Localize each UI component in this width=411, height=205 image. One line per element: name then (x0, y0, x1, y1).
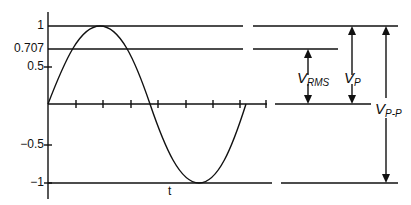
y-tick-label-neg05: −0.5 (0, 137, 44, 151)
v-peak-label: VP (344, 69, 361, 88)
y-tick-label-neg1: −1 (0, 175, 44, 189)
y-tick-label-1: 1 (0, 18, 44, 32)
y-tick-label-0707: 0.707 (0, 41, 44, 55)
y-tick-label-05: 0.5 (0, 59, 44, 73)
v-peak-to-peak-label: VP-P (375, 100, 402, 119)
x-axis-label: t (168, 184, 171, 198)
sine-wave-diagram (0, 0, 411, 205)
v-rms-label: VRMS (297, 69, 329, 88)
